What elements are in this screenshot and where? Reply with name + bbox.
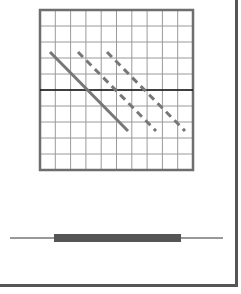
diagram-canvas <box>0 0 241 294</box>
dashed-diagonal-line-3 <box>107 52 185 131</box>
range-bar <box>54 234 181 242</box>
